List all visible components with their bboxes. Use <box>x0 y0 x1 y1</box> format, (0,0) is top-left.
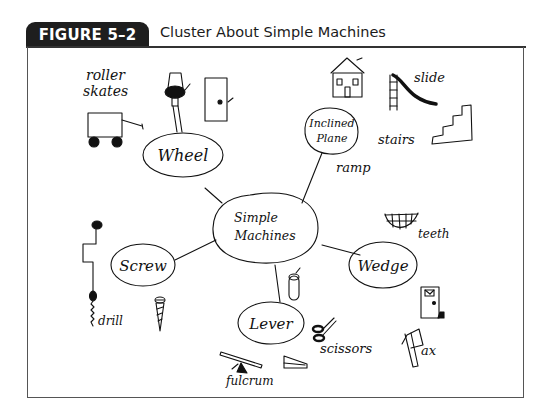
teeth-label: teeth <box>418 227 450 241</box>
node-screw[interactable]: Screw <box>111 244 175 286</box>
scissors-label: scissors <box>320 341 372 356</box>
fulcrum-label: fulcrum <box>225 374 274 388</box>
scissors-icon: scissors <box>313 318 372 356</box>
wagon-icon <box>88 113 143 147</box>
teeth-icon: teeth <box>385 213 450 241</box>
ax-label: ax <box>421 343 437 358</box>
svg-text:skates: skates <box>83 83 128 99</box>
door-stop-icon <box>421 287 444 318</box>
door-icon <box>205 78 233 121</box>
node-screw-label: Screw <box>119 257 167 275</box>
node-inclined-label-line2: Plane <box>315 132 348 145</box>
doorknob-icon <box>165 73 190 132</box>
svg-text:roller: roller <box>86 67 126 83</box>
ramp-label: ramp <box>336 160 371 175</box>
seesaw-icon: fulcrum <box>220 352 274 388</box>
ax-icon: ax <box>402 329 437 367</box>
stairs-icon: stairs <box>378 105 472 147</box>
node-wedge-label: Wedge <box>357 257 408 275</box>
house-icon <box>331 58 364 97</box>
slide-label: slide <box>414 70 445 85</box>
node-lever-label: Lever <box>248 315 293 333</box>
center-node-simple-machines[interactable]: Simple Machines <box>213 193 318 263</box>
node-wheel-label: Wheel <box>158 146 209 165</box>
slide-icon: slide <box>390 70 445 110</box>
roller-skates-label: roller skates <box>83 67 128 99</box>
stapler-icon <box>284 356 307 368</box>
node-wheel[interactable]: Wheel <box>143 133 223 177</box>
drill-icon: drill <box>83 221 123 328</box>
center-node-line1: Simple <box>234 210 278 225</box>
node-inclined-plane[interactable]: Inclined Plane <box>305 108 358 154</box>
can-opener-icon <box>289 268 300 300</box>
drill-label: drill <box>98 314 123 328</box>
cluster-diagram: Simple Machines Wheel Inclined Plane Wed… <box>0 0 550 418</box>
node-inclined-label-line1: Inclined <box>308 117 354 130</box>
stairs-label: stairs <box>378 132 415 147</box>
screw-icon <box>155 297 165 331</box>
node-wedge[interactable]: Wedge <box>349 242 417 288</box>
center-node-line2: Machines <box>233 228 295 243</box>
node-lever[interactable]: Lever <box>238 302 304 344</box>
